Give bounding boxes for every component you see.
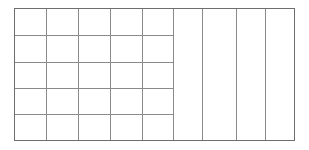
left-grid-region (14, 8, 173, 140)
table-outer-border (14, 8, 294, 140)
right-columns-region (202, 8, 265, 140)
table-grid-diagram (0, 0, 309, 150)
diagram-canvas (0, 0, 309, 150)
outer-border (14, 8, 294, 140)
